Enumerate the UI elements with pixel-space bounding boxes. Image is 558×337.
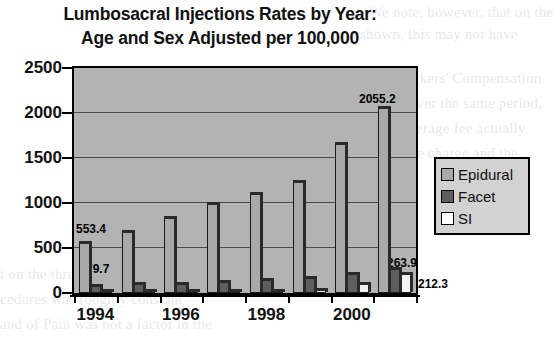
legend-label-facet: Facet [458, 188, 496, 205]
bar-epidural-1994[interactable] [79, 243, 90, 293]
y-tick-mark-0 [62, 292, 72, 294]
bar-side-face [260, 192, 263, 292]
chart-title: Lumbosacral Injections Rates by Year: Ag… [0, 2, 440, 50]
bar-side-face [174, 216, 177, 292]
chart-title-line-1: Lumbosacral Injections Rates by Year: [0, 2, 440, 26]
y-tick-label-1000: 1000 [2, 193, 62, 213]
bar-side-face [239, 289, 242, 292]
gridline-1500 [74, 157, 416, 158]
y-tick-mark-1000 [62, 202, 72, 204]
bar-side-face [271, 278, 274, 292]
x-tick-mark-8 [416, 295, 418, 303]
y-tick-label-2000: 2000 [2, 103, 62, 123]
legend-swatch-epidural [441, 168, 454, 181]
bar-side-face [228, 280, 231, 292]
legend-swatch-si [441, 212, 454, 225]
y-tick-label-500: 500 [2, 238, 62, 258]
legend-label-epidural: Epidural [458, 166, 513, 183]
x-tick-mark-0 [74, 295, 76, 303]
bar-side-face [89, 241, 92, 292]
bar-side-face [368, 282, 371, 292]
legend-swatch-facet [441, 190, 454, 203]
x-tick-mark-5 [288, 295, 290, 303]
bar-side-face [186, 282, 189, 292]
bar-side-face [314, 276, 317, 292]
data-label-epidural-1994: 553.4 [76, 222, 106, 236]
x-tick-mark-6 [331, 295, 333, 303]
bar-side-face [282, 289, 285, 292]
bar-side-face [143, 282, 146, 292]
bar-epidural-1996[interactable] [164, 218, 175, 293]
bar-side-face [345, 142, 348, 292]
data-label-epidural-2001: 2055.2 [359, 92, 396, 106]
legend: Epidural Facet SI [434, 157, 530, 235]
bar-side-face [132, 230, 135, 292]
bar-side-face [217, 202, 220, 292]
bar-chart: Lumbosacral Injections Rates by Year: Ag… [0, 0, 558, 337]
y-tick-mark-2500 [62, 67, 72, 69]
bar-side-face [154, 289, 157, 292]
bar-epidural-1997[interactable] [207, 204, 218, 293]
bar-epidural-2001[interactable] [378, 108, 389, 293]
x-tick-mark-4 [245, 295, 247, 303]
legend-item-si[interactable]: SI [441, 207, 523, 229]
gridline-2000 [74, 112, 416, 113]
gridline-1000 [74, 202, 416, 203]
bar-side-face [303, 180, 306, 292]
y-axis: 05001000150020002500 [0, 60, 72, 305]
bar-epidural-1995[interactable] [122, 232, 133, 293]
x-axis: 1994199619982000 [72, 295, 418, 337]
y-tick-mark-500 [62, 247, 72, 249]
x-tick-mark-2 [160, 295, 162, 303]
bar-side-face [357, 272, 360, 292]
y-tick-mark-1500 [62, 157, 72, 159]
x-tick-mark-7 [373, 295, 375, 303]
bar-epidural-1998[interactable] [250, 194, 261, 293]
bar-side-face [100, 284, 103, 292]
y-tick-mark-2000 [62, 112, 72, 114]
bar-side-face [399, 267, 402, 292]
data-label-si-2001: 212.3 [418, 277, 448, 291]
legend-item-facet[interactable]: Facet [441, 185, 523, 207]
x-tick-label-1996: 1996 [162, 305, 200, 325]
bar-side-face [388, 106, 391, 292]
y-tick-label-2500: 2500 [2, 58, 62, 78]
bar-epidural-2000[interactable] [335, 144, 346, 293]
x-tick-label-1998: 1998 [247, 305, 285, 325]
bar-side-face [111, 289, 114, 292]
chart-title-line-2: Age and Sex Adjusted per 100,000 [0, 26, 440, 50]
x-tick-label-2000: 2000 [333, 305, 371, 325]
y-tick-label-1500: 1500 [2, 148, 62, 168]
x-tick-mark-1 [117, 295, 119, 303]
x-tick-label-1994: 1994 [76, 305, 114, 325]
legend-label-si: SI [458, 210, 472, 227]
y-tick-label-0: 0 [2, 283, 62, 303]
bar-side-face [197, 289, 200, 292]
legend-item-epidural[interactable]: Epidural [441, 163, 523, 185]
x-tick-mark-3 [202, 295, 204, 303]
bar-side-face [325, 288, 328, 292]
bar-side-face [410, 272, 413, 292]
bar-epidural-1999[interactable] [293, 182, 304, 293]
